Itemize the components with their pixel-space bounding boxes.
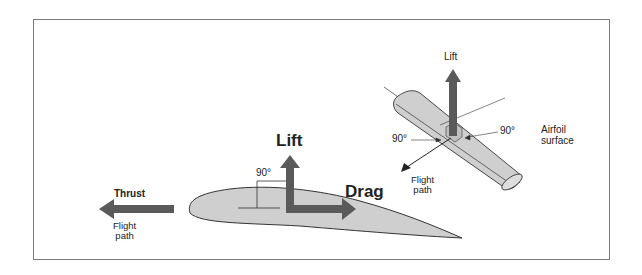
flight-path-line2: path <box>113 231 136 241</box>
inset-lift-label: Lift <box>444 51 457 62</box>
lift-label: Lift <box>276 132 302 151</box>
inset-flight-path-line <box>407 138 451 167</box>
airfoil-surface-line2: surface <box>541 135 574 146</box>
thrust-arrow <box>99 199 174 219</box>
angle-label: 90° <box>256 167 271 178</box>
inset-angle-left-label: 90° <box>392 133 407 144</box>
flight-path-label: Flight path <box>113 221 136 242</box>
inset-angle-right-label: 90° <box>500 125 515 136</box>
inset-flight-path-line2: path <box>411 185 434 195</box>
airfoil-surface-line1: Airfoil <box>541 124 574 135</box>
inset-flight-path-arrowhead <box>401 163 411 172</box>
airfoil-surface-label: Airfoil surface <box>541 124 574 146</box>
thrust-label: Thrust <box>114 188 145 199</box>
inset-flight-path-label: Flight path <box>411 175 434 196</box>
drag-label: Drag <box>345 183 384 202</box>
